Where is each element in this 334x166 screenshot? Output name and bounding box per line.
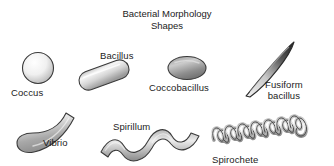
shape-coccus [23,53,54,84]
shape-bacillus [76,57,131,93]
label-coccus: Coccus [11,87,43,98]
shape-coccobacillus [168,57,206,80]
label-vibrio: Vibrio [43,137,68,148]
label-spirochete: Spirochete [212,154,258,165]
bacterial-morphology-figure: Bacterial Morphology Shapes [0,0,334,166]
label-coccobacillus: Coccobacillus [149,82,209,93]
label-fusiform-bacillus: Fusiform bacillus [265,79,303,101]
label-bacillus: Bacillus [100,50,134,61]
label-spirillum: Spirillum [113,121,150,132]
shape-spirillum [101,130,199,161]
shape-spirochete [213,116,307,142]
